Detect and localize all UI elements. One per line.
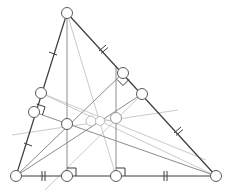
vertex-B[interactable] (11, 171, 22, 182)
point-midpoint-AB[interactable] (36, 88, 47, 99)
triangle-diagram (0, 0, 234, 193)
vertex-A[interactable] (62, 8, 73, 19)
right-angle-E (117, 80, 129, 86)
tick-AB-upper (49, 52, 57, 55)
point-orthocenter-H[interactable] (62, 119, 73, 130)
light-lines (12, 13, 216, 190)
point-F-foot-altitude-C[interactable] (29, 107, 40, 118)
diagram-canvas (0, 0, 234, 193)
point-midpoint-AC[interactable] (137, 89, 148, 100)
point-midpoint-BC[interactable] (111, 171, 122, 182)
point-centroid[interactable] (96, 117, 105, 126)
point-E-foot-altitude-B[interactable] (118, 68, 129, 79)
point-circumcenter-O[interactable] (111, 113, 122, 124)
vertex-C[interactable] (211, 171, 222, 182)
cevian-A-to-Mbc (67, 13, 116, 176)
point-nine-point-center[interactable] (86, 116, 96, 126)
altitude-from-C (34, 112, 216, 176)
point-D-foot-altitude-A[interactable] (62, 171, 73, 182)
